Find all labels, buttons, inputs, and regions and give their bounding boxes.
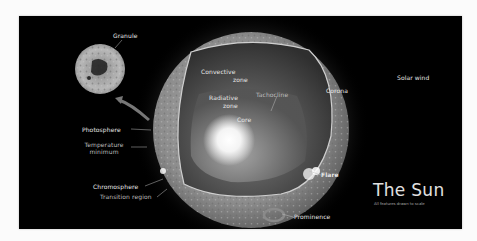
label-corona: Corona [326,88,348,95]
sun-diagram-panel: Granule Solar wind Convective zone Radia… [19,16,462,229]
label-transition-region: Transition region [100,194,152,201]
diagram-subtitle: All features drawn to scale [374,201,425,206]
label-radiative-zone-2: zone [223,103,238,110]
label-prominence: Prominence [294,214,330,221]
label-radiative-zone-1: Radiative [209,95,238,102]
label-convective-zone-1: Convective [201,69,235,76]
label-chromosphere: Chromosphere [93,184,138,191]
label-flare: Flare [321,172,339,179]
label-core: Core [237,117,251,124]
label-photosphere: Photosphere [82,127,121,134]
label-temperature-minimum-2: minimum [82,149,126,156]
label-solar-wind: Solar wind [397,75,429,82]
label-granule: Granule [113,33,137,40]
label-tachocline: Tachocline [256,92,288,99]
diagram-title: The Sun [373,180,444,200]
label-convective-zone-2: zone [233,77,248,84]
